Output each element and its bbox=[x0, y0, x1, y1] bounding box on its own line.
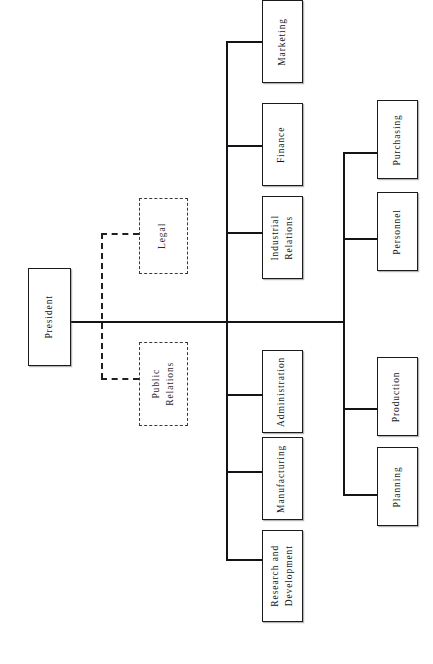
connector-dashed-to-legal bbox=[101, 233, 139, 235]
node-marketing-label: Marketing bbox=[276, 18, 290, 66]
node-research-development[interactable]: Research and Development bbox=[262, 530, 303, 622]
node-public-relations[interactable]: Public Relations bbox=[139, 342, 188, 426]
node-finance[interactable]: Finance bbox=[262, 103, 303, 186]
node-planning-label: Planning bbox=[391, 466, 405, 507]
node-administration[interactable]: Administration bbox=[262, 350, 303, 433]
connector-branch-industrial-relations bbox=[226, 232, 262, 234]
node-public-relations-label: Public Relations bbox=[150, 362, 178, 406]
connector-branch-personnel bbox=[343, 238, 377, 240]
node-president[interactable]: President bbox=[28, 268, 71, 366]
node-president-label: President bbox=[43, 295, 57, 338]
node-personnel[interactable]: Personnel bbox=[377, 192, 418, 271]
connector-level3-spine bbox=[343, 152, 345, 495]
connector-branch-planning bbox=[343, 494, 377, 496]
node-legal-label: Legal bbox=[157, 223, 171, 249]
node-planning[interactable]: Planning bbox=[377, 447, 418, 526]
node-purchasing-label: Purchasing bbox=[391, 114, 405, 165]
org-chart-canvas: President Legal Public Relations Marketi… bbox=[0, 0, 433, 664]
connector-dashed-to-public-relations bbox=[101, 378, 139, 380]
node-personnel-label: Personnel bbox=[391, 209, 405, 255]
node-industrial-relations[interactable]: Industrial Relations bbox=[262, 196, 303, 279]
connector-branch-finance bbox=[226, 145, 262, 147]
connector-branch-marketing bbox=[226, 41, 262, 43]
node-manufacturing-label: Manufacturing bbox=[276, 444, 290, 512]
node-production[interactable]: Production bbox=[377, 357, 418, 436]
connector-branch-research-development bbox=[226, 559, 262, 561]
node-manufacturing[interactable]: Manufacturing bbox=[262, 437, 303, 520]
connector-staff-dashed-vertical bbox=[101, 233, 103, 379]
node-purchasing[interactable]: Purchasing bbox=[377, 100, 418, 179]
connector-branch-manufacturing bbox=[226, 471, 262, 473]
connector-branch-purchasing bbox=[343, 152, 377, 154]
node-industrial-relations-label: Industrial Relations bbox=[269, 215, 297, 260]
node-research-development-label: Research and Development bbox=[269, 545, 297, 607]
node-administration-label: Administration bbox=[276, 356, 290, 426]
node-finance-label: Finance bbox=[276, 126, 290, 162]
connector-branch-production bbox=[343, 408, 377, 410]
connector-branch-administration bbox=[226, 394, 262, 396]
connector-trunk-to-level3 bbox=[226, 321, 345, 323]
connector-president-trunk bbox=[70, 321, 228, 323]
connector-level2-spine bbox=[226, 41, 228, 560]
node-production-label: Production bbox=[391, 371, 405, 422]
node-marketing[interactable]: Marketing bbox=[262, 0, 303, 83]
node-legal[interactable]: Legal bbox=[139, 198, 188, 274]
